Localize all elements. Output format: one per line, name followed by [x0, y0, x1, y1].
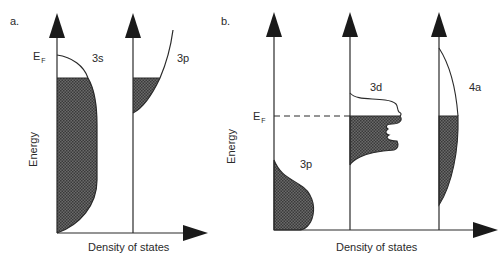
band-label-3p-b: 3p [300, 159, 312, 170]
band-label-3s: 3s [92, 53, 104, 64]
arrowhead-up-icon [266, 12, 282, 37]
band-label-3d: 3d [370, 82, 382, 93]
band-3d-occupied [350, 116, 401, 165]
fermi-level-label-a: EF [33, 51, 46, 62]
fermi-symbol: E [33, 50, 40, 62]
fermi-subscript: F [261, 117, 265, 124]
band-label-3p-a: 3p [177, 53, 189, 64]
band-4a-occupied [439, 116, 458, 205]
arrowhead-right-icon [473, 222, 498, 238]
band-4a-curve [439, 48, 458, 116]
arrowhead-right-icon [183, 225, 208, 241]
panel-a [49, 13, 208, 241]
energy-axis-label-a: Energy [28, 132, 39, 167]
arrowhead-up-icon [49, 13, 65, 38]
panel-b-label: b. [221, 16, 230, 27]
dos-axis-label-b: Density of states [336, 242, 417, 253]
band-3p-b-occupied [274, 160, 314, 230]
arrowhead-up-icon [125, 13, 141, 38]
fermi-subscript: F [41, 57, 45, 64]
band-3d-curve [350, 93, 401, 116]
band-3p-occupied [133, 78, 160, 113]
fermi-level-label-b: EF [253, 111, 266, 122]
fermi-symbol: E [253, 110, 260, 122]
panel-a-label: a. [10, 16, 19, 27]
panel-b [266, 12, 498, 238]
energy-axis-label-b: Energy [226, 129, 237, 164]
dos-axis-label-a: Density of states [88, 242, 169, 253]
arrowhead-up-icon [431, 12, 447, 37]
band-3s-occupied [57, 78, 97, 233]
arrowhead-up-icon [342, 12, 358, 37]
density-of-states-diagram [0, 0, 502, 263]
band-label-4a: 4a [469, 82, 481, 93]
